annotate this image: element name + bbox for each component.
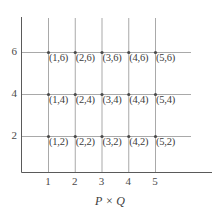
plot-canvas — [0, 0, 220, 217]
point-coordinate-label: (2,4) — [76, 95, 95, 106]
point-coordinate-label: (1,2) — [49, 137, 68, 148]
point-coordinate-label: (1,6) — [49, 53, 68, 64]
y-axis-tick-label: 6 — [3, 46, 17, 57]
point-coordinate-label: (2,6) — [76, 53, 95, 64]
point-coordinate-label: (3,4) — [103, 95, 122, 106]
y-axis-tick-label: 4 — [3, 88, 17, 99]
point-coordinate-label: (5,4) — [156, 95, 175, 106]
point-coordinate-label: (4,4) — [129, 95, 148, 106]
point-coordinate-label: (3,6) — [103, 53, 122, 64]
x-axis-tick-label: 5 — [148, 176, 162, 187]
point-coordinate-label: (2,2) — [76, 137, 95, 148]
x-axis-tick-label: 3 — [95, 176, 109, 187]
y-axis-tick-label: 2 — [3, 130, 17, 141]
x-axis-tick-label: 4 — [121, 176, 135, 187]
x-axis-tick-label: 1 — [41, 176, 55, 187]
point-coordinate-label: (4,2) — [129, 137, 148, 148]
point-coordinate-label: (4,6) — [129, 53, 148, 64]
x-axis-tick-label: 2 — [68, 176, 82, 187]
x-axis-caption: P × Q — [0, 194, 220, 209]
point-coordinate-label: (3,2) — [103, 137, 122, 148]
point-coordinate-label: (5,6) — [156, 53, 175, 64]
cartesian-product-plot: 246 12345 (1,6)(2,6)(3,6)(4,6)(5,6)(1,4)… — [0, 0, 220, 217]
point-coordinate-label: (5,2) — [156, 137, 175, 148]
point-coordinate-label: (1,4) — [49, 95, 68, 106]
